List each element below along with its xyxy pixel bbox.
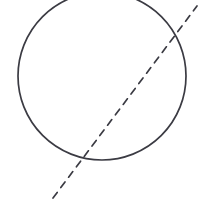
- figure-canvas: [0, 0, 205, 210]
- geometry-diagram: [0, 0, 205, 210]
